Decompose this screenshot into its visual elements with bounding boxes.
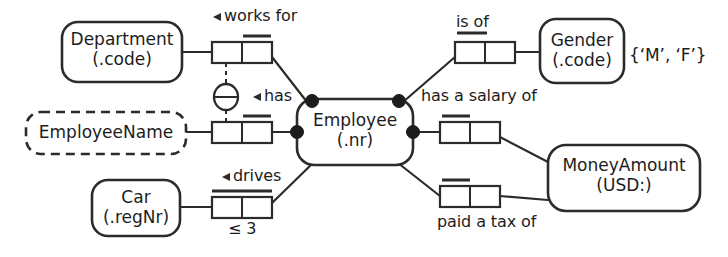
object-name-employeename: EmployeeName (26, 122, 186, 142)
object-refmode-car: (.regNr) (92, 207, 180, 227)
fact-type-is-of[interactable] (455, 33, 515, 63)
fact-type-drives[interactable] (212, 191, 272, 218)
exclusion-constraint[interactable] (214, 63, 238, 122)
fact-type-works-for[interactable] (212, 36, 272, 63)
object-refmode-gender: (.code) (540, 50, 624, 70)
object-refmode-moneyamount: (USD:) (548, 175, 700, 195)
object-name-moneyamount: MoneyAmount (548, 155, 700, 175)
fact-type-has-a-salary-of[interactable] (440, 116, 500, 143)
object-label-gender: Gender (.code) (540, 30, 624, 71)
frequency-constraint-drives[interactable]: ≤ 3 (228, 220, 256, 239)
predicate-label-drives[interactable]: drives (233, 167, 281, 186)
object-name-car: Car (92, 187, 180, 207)
predicate-label-works-for[interactable]: works for (224, 7, 297, 26)
reading-arrow-has (253, 93, 261, 101)
predicate-label-is-of[interactable]: is of (456, 13, 489, 32)
mandatory-dot-employee-topleft (306, 95, 319, 108)
object-label-moneyamount: MoneyAmount (USD:) (548, 155, 700, 196)
mandatory-dot-employee-topright (393, 95, 406, 108)
predicate-label-has[interactable]: has (264, 87, 292, 106)
object-refmode-department: (.code) (62, 49, 182, 69)
predicate-label-has-a-salary-of[interactable]: has a salary of (421, 87, 537, 106)
object-label-car: Car (.regNr) (92, 187, 180, 228)
connector-employee-tax (398, 163, 440, 196)
object-label-employeename: EmployeeName (26, 122, 186, 142)
orm-diagram-canvas: Department (.code) EmployeeName Car (.re… (0, 0, 728, 257)
value-constraint-gender[interactable]: {‘M’, ‘F’} (629, 46, 707, 66)
connector-salary-moneyamount (500, 137, 548, 162)
object-label-employee: Employee (.nr) (297, 110, 413, 151)
object-name-employee: Employee (297, 110, 413, 130)
object-refmode-employee: (.nr) (297, 130, 413, 150)
predicate-label-paid-a-tax-of[interactable]: paid a tax of (437, 213, 536, 232)
reading-arrow-works-for (213, 13, 221, 21)
fact-type-paid-a-tax-of[interactable] (440, 180, 500, 207)
fact-type-has[interactable] (212, 116, 272, 143)
object-label-department: Department (.code) (62, 29, 182, 70)
connector-tax-moneyamount (500, 196, 548, 200)
reading-arrow-drives (222, 173, 230, 181)
object-name-department: Department (62, 29, 182, 49)
object-name-gender: Gender (540, 30, 624, 50)
